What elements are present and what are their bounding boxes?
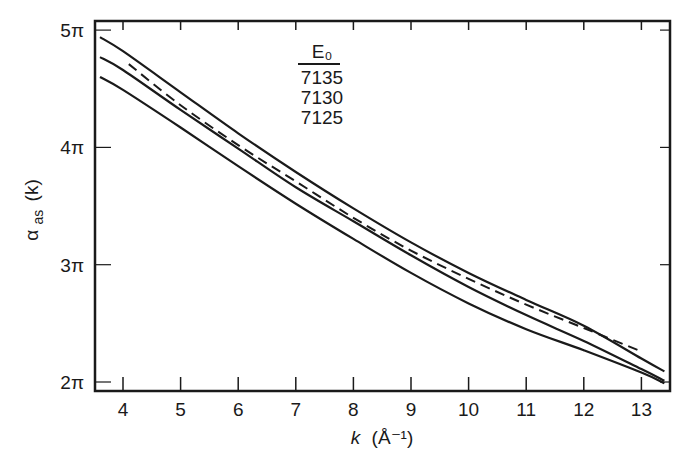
legend: E₀ 713571307125 [298,41,343,128]
y-tick-label: 2π [60,372,84,393]
x-tick-label: 10 [458,399,479,420]
x-tick-label: 13 [631,399,652,420]
x-axis-ticks: 45678910111213 [118,21,652,420]
y-axis-label: α as (k) [21,179,47,241]
legend-entries: 713571307125 [301,67,343,128]
series-line-reference-dashed- [129,64,642,351]
legend-entry: 7135 [301,67,343,88]
y-axis-label-subscript: as [30,210,46,225]
legend-title: E₀ [312,41,333,62]
series-line-7135 [100,37,664,371]
data-series [100,37,664,383]
chart: 45678910111213 2π3π4π5π E₀ 713571307125 … [0,0,681,458]
svg-text:α as (k): α as (k) [21,179,47,241]
x-tick-label: 8 [348,399,359,420]
y-axis-label-arg: (k) [21,179,42,201]
series-line-7130 [100,57,664,381]
x-tick-label: 11 [516,399,536,420]
x-tick-label: 6 [233,399,244,420]
y-axis-ticks: 2π3π4π5π [60,20,670,393]
series-line-7125 [100,77,664,383]
x-tick-label: 9 [406,399,417,420]
x-axis-label: k (Å⁻¹) [351,427,413,448]
x-tick-label: 5 [175,399,186,420]
plot-frame [95,21,670,391]
y-tick-label: 5π [60,20,84,41]
svg-text:k (Å⁻¹): k (Å⁻¹) [351,427,413,448]
x-tick-label: 12 [573,399,594,420]
x-axis-label-units: (Å⁻¹) [372,427,414,448]
legend-entry: 7130 [301,87,343,108]
y-tick-label: 4π [60,137,84,158]
x-axis-label-k: k [351,427,362,448]
legend-entry: 7125 [301,107,343,128]
y-tick-label: 3π [60,255,84,276]
y-axis-label-alpha: α [21,230,42,241]
x-tick-label: 4 [118,399,129,420]
x-tick-label: 7 [291,399,302,420]
